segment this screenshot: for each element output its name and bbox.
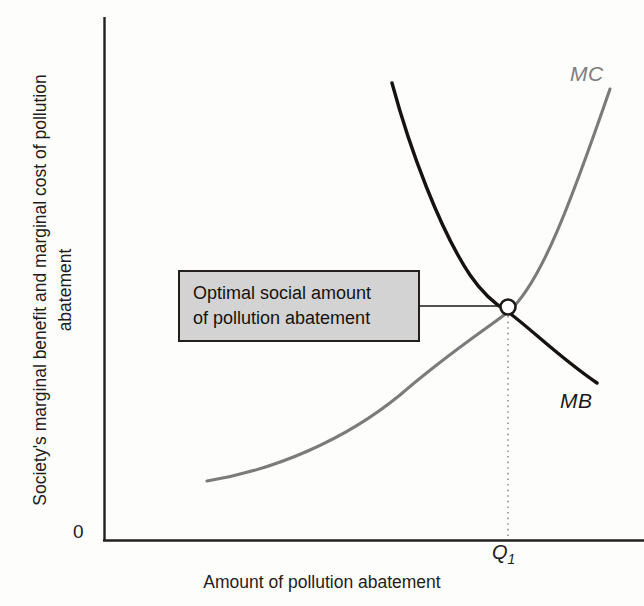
callout-line-1: Optimal social amount bbox=[193, 281, 418, 306]
intersection-marker bbox=[501, 300, 516, 315]
mb-curve bbox=[392, 83, 597, 383]
q1-tick-label: Q1 bbox=[492, 541, 515, 567]
q1-subscript: 1 bbox=[508, 551, 516, 567]
q1-base: Q bbox=[492, 541, 508, 563]
optimal-point-callout: Optimal social amount of pollution abate… bbox=[178, 270, 420, 342]
x-axis-label: Amount of pollution abatement bbox=[0, 572, 644, 593]
mc-curve-label: MC bbox=[570, 62, 604, 86]
economics-abatement-chart: Optimal social amount of pollution abate… bbox=[0, 0, 644, 606]
y-axis-label: Society's marginal benefit and marginal … bbox=[28, 70, 78, 510]
mb-curve-label: MB bbox=[560, 389, 593, 413]
origin-label: 0 bbox=[73, 521, 84, 543]
callout-line-2: of pollution abatement bbox=[193, 306, 418, 331]
